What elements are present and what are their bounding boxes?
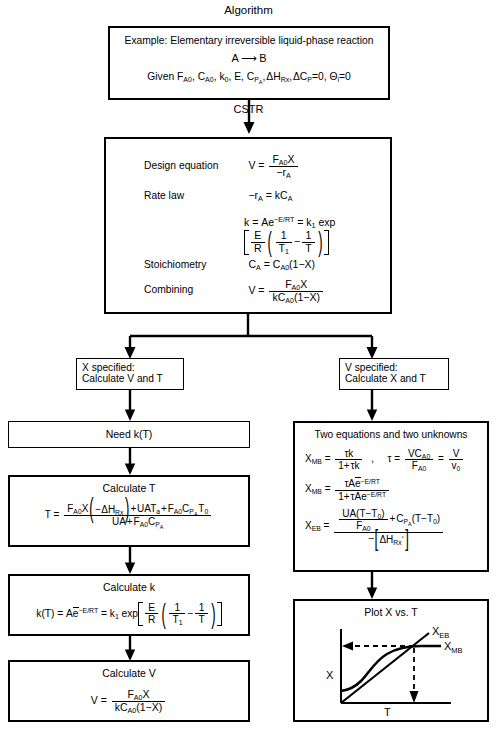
cstr-row-arrhenius: k = Ae−E/RT = k1 expER1T1−1T bbox=[244, 212, 390, 255]
fraction-tau-2: V v0 bbox=[449, 448, 464, 471]
connector-split bbox=[72, 314, 432, 360]
calculate-V-box: Calculate V V = FA0X kCA0(1−X) bbox=[8, 660, 250, 722]
reaction-arrow-icon: ⟶ bbox=[241, 52, 256, 64]
fraction-design: FA0X −rA bbox=[269, 154, 297, 179]
plot-arrow-left bbox=[342, 642, 353, 651]
plot-label-x: T bbox=[384, 706, 391, 718]
fraction-E-R-k: ER bbox=[145, 602, 158, 626]
eq-xeb: XEB = UA(T−T0) FA0 + CPA(T−T0) −ΔHRx° bbox=[305, 508, 487, 545]
two-equations-title: Two equations and two unknowns bbox=[295, 429, 487, 440]
cstr-box: Design equation V = FA0X −rA Rate law −r… bbox=[104, 137, 392, 314]
cstr-eq-stoichiometry: CA = CA0(1−X) bbox=[248, 258, 315, 270]
calculate-k-equation: k(T) = Ae−E/RT = k1 expER1T1−1T bbox=[10, 602, 248, 626]
fraction-xmb-1: τk 1+ τk bbox=[335, 448, 362, 471]
fraction-tau-1: VCA0 FA0 bbox=[405, 448, 433, 471]
fraction-1-T1: 1T1 bbox=[276, 230, 292, 255]
connector-left-4 bbox=[122, 636, 138, 662]
cstr-row-rate: Rate law −rA = kCA bbox=[144, 185, 384, 203]
plot-box: Plot X vs. T XEB XMB X T bbox=[293, 599, 489, 722]
example-box: Example: Elementary irreversible liquid-… bbox=[108, 26, 390, 100]
cstr-label-design: Design equation bbox=[144, 160, 244, 171]
left-decision-line1: X specified: bbox=[82, 362, 183, 373]
plot-canvas: XEB XMB X T bbox=[301, 621, 485, 719]
plot-series-xmb bbox=[341, 646, 441, 691]
need-k-box: Need k(T) bbox=[8, 421, 250, 448]
connector-right-1 bbox=[364, 390, 380, 422]
diagram-heading: Algorithm bbox=[0, 4, 497, 16]
fraction-calc-V: FA0X kCA0(1−X) bbox=[112, 689, 166, 714]
calculate-V-equation: V = FA0X kCA0(1−X) bbox=[10, 689, 248, 714]
calculate-k-title: Calculate k bbox=[10, 581, 248, 593]
plot-title: Plot X vs. T bbox=[295, 606, 487, 618]
example-line1: Example: Elementary irreversible liquid-… bbox=[110, 35, 388, 46]
given-line: Given FA0, CA0, k0, E, CPA, ΔHRx, ΔCP=0,… bbox=[110, 71, 388, 82]
connector-label-cstr: CSTR bbox=[0, 103, 497, 115]
fraction-xeb-inner: UA(T−T0) FA0 bbox=[339, 508, 387, 531]
bracket-arrhenius: ER1T1−1T bbox=[244, 230, 329, 255]
calculate-k-box: Calculate k k(T) = Ae−E/RT = k1 expER1T1… bbox=[8, 574, 250, 636]
eq-xmb-tau: XMB = τk 1+ τk , τ = VCA0 FA0 = V v0 bbox=[305, 448, 487, 471]
cstr-row-stoichiometry: Stoichiometry CA = CA0(1−X) bbox=[144, 254, 384, 272]
plot-arrow-down bbox=[410, 691, 419, 703]
paren-dHrx: −ΔHRx bbox=[88, 504, 130, 515]
fraction-xmb-2: τAe−E/RT 1+ τAe−E/RT bbox=[335, 478, 389, 501]
paren-arrhenius: 1T1−1T bbox=[267, 230, 324, 255]
given-items: FA0, CA0, k0, E, CPA, ΔHRx, ΔCP=0, Θi=0 bbox=[177, 71, 351, 82]
cstr-label-rate: Rate law bbox=[144, 190, 244, 201]
calculate-T-box: Calculate T T = FA0X−ΔHRx+ UATa + FA0CPA… bbox=[8, 475, 250, 547]
product-B: B bbox=[259, 52, 266, 64]
fraction-calc-T: FA0X−ΔHRx+ UATa + FA0CPA T0 UA + FA0CPA bbox=[64, 503, 211, 527]
cstr-label-combining: Combining bbox=[144, 284, 244, 295]
two-equations-box: Two equations and two unknowns XMB = τk … bbox=[293, 421, 489, 572]
right-decision-line2: Calculate X and T bbox=[345, 373, 448, 384]
reactant-A: A bbox=[232, 52, 239, 64]
given-prefix: Given bbox=[147, 71, 174, 82]
cstr-label-stoichiometry: Stoichiometry bbox=[144, 259, 244, 270]
bracket-calc-k: ER1T1−1T bbox=[138, 602, 222, 626]
cstr-row-combining: Combining V = FA0X kCA0(1−X) bbox=[144, 279, 384, 304]
bracket-dHrx: ΔHRx° bbox=[374, 534, 408, 545]
cstr-eq-combining: V = FA0X kCA0(1−X) bbox=[248, 284, 325, 296]
fraction-1-T: 1T bbox=[302, 230, 314, 255]
plot-svg: XEB XMB X T bbox=[301, 621, 485, 719]
calculate-T-equation: T = FA0X−ΔHRx+ UATa + FA0CPA T0 UA + FA0… bbox=[10, 503, 248, 527]
fraction-1-T-k: 1T bbox=[195, 602, 207, 626]
left-decision-line2: Calculate V and T bbox=[82, 373, 183, 384]
fraction-xeb: UA(T−T0) FA0 + CPA(T−T0) −ΔHRx° bbox=[334, 508, 443, 545]
plot-label-xmb: XMB bbox=[444, 640, 463, 655]
left-decision-box: X specified: Calculate V and T bbox=[76, 358, 184, 390]
connector-left-2 bbox=[122, 448, 138, 476]
cstr-eq-design: V = FA0X −rA bbox=[248, 159, 299, 171]
reaction-equation: A ⟶ B bbox=[110, 52, 388, 65]
connector-left-3 bbox=[122, 547, 138, 575]
need-k-label: Need k(T) bbox=[9, 428, 249, 440]
cstr-eq-rate: −rA = kCA bbox=[248, 189, 292, 201]
calculate-V-title: Calculate V bbox=[10, 667, 248, 679]
right-decision-box: V specified: Calculate X and T bbox=[339, 358, 449, 390]
paren-calc-k: 1T1−1T bbox=[160, 602, 216, 626]
connector-left-1 bbox=[122, 390, 138, 422]
cstr-eq-arrhenius: k = Ae−E/RT = k1 expER1T1−1T bbox=[244, 216, 335, 247]
eq-xmb-arrhenius: XMB = τAe−E/RT 1+ τAe−E/RT bbox=[305, 478, 487, 501]
right-decision-line1: V specified: bbox=[345, 362, 448, 373]
fraction-1-T1-k: 1T1 bbox=[169, 602, 185, 626]
plot-label-xeb: XEB bbox=[432, 625, 449, 640]
connector-right-2 bbox=[364, 572, 380, 600]
fraction-E-R: ER bbox=[251, 230, 265, 255]
fraction-combining: FA0X kCA0(1−X) bbox=[269, 279, 323, 304]
cstr-row-design: Design equation V = FA0X −rA bbox=[144, 154, 384, 179]
plot-label-y: X bbox=[326, 669, 334, 681]
